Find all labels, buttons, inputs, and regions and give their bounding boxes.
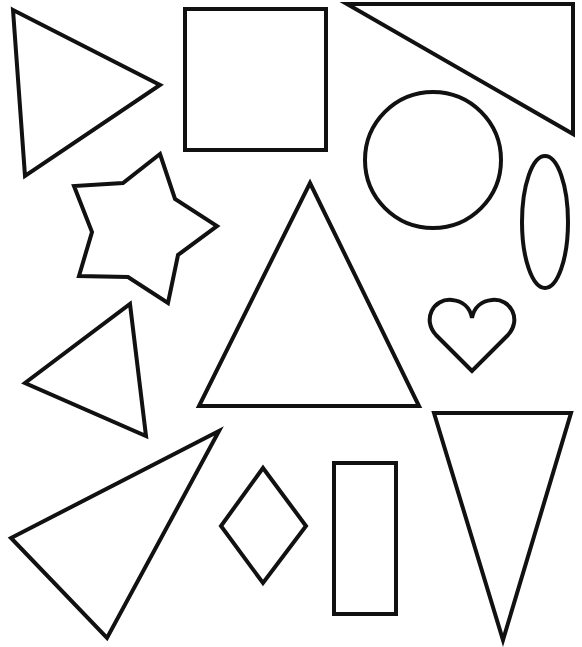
triangle-right-pointing — [13, 10, 160, 176]
star — [74, 154, 217, 303]
square — [185, 9, 326, 150]
triangle-inverted — [434, 413, 571, 640]
triangle-large-isosceles — [199, 183, 419, 406]
rhombus — [221, 468, 306, 583]
triangle-small-left — [25, 304, 146, 436]
ellipse — [522, 156, 568, 288]
shapes-worksheet — [0, 0, 582, 647]
heart — [430, 300, 515, 371]
circle — [365, 92, 501, 228]
triangle-scalene-bottom-left — [11, 431, 219, 638]
rectangle — [334, 463, 396, 614]
